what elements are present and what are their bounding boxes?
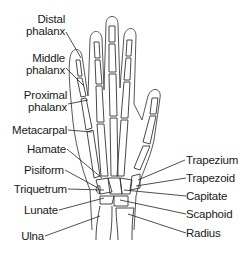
label-lunate: Lunate (10, 204, 58, 216)
label-trapezoid: Trapezoid (186, 172, 235, 184)
label-ulna: Ulna (10, 230, 44, 242)
label-trapezium: Trapezium (186, 154, 238, 166)
label-distal-phalanx: Distal phalanx (10, 13, 65, 37)
label-middle-phalanx-line2: phalanx (10, 64, 65, 76)
label-proximal-phalanx-line2: phalanx (10, 101, 67, 113)
label-distal-phalanx-line1: Distal (10, 13, 65, 25)
label-proximal-phalanx: Proximal phalanx (10, 89, 67, 113)
label-proximal-phalanx-line1: Proximal (10, 89, 67, 101)
label-capitate: Capitate (186, 190, 227, 202)
label-hamate: Hamate (10, 143, 66, 155)
hand-bones-diagram: Distal phalanx Middle phalanx Proximal p… (0, 0, 245, 253)
label-metacarpal: Metacarpal (2, 124, 67, 136)
label-scaphoid: Scaphoid (186, 208, 232, 220)
label-middle-phalanx-line1: Middle (10, 52, 65, 64)
label-triquetrum: Triquetrum (2, 183, 67, 195)
label-pisiform: Pisiform (10, 164, 64, 176)
label-middle-phalanx: Middle phalanx (10, 52, 65, 76)
label-radius: Radius (186, 227, 221, 239)
label-distal-phalanx-line2: phalanx (10, 25, 65, 37)
